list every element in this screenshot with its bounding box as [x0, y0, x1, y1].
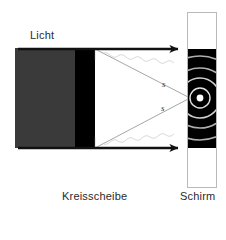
ray-upper: [95, 49, 190, 98]
ray-label-upper: s: [162, 79, 166, 89]
label-licht: Licht: [30, 29, 54, 41]
label-kreisscheibe: Kreisscheibe: [62, 190, 127, 202]
ray-label-lower: s: [161, 103, 165, 113]
wave-squiggles: [102, 53, 174, 145]
ray-group: [95, 49, 190, 148]
light-block: [15, 48, 75, 148]
diffraction-pattern: [158, 49, 226, 148]
disc-bar: [75, 48, 95, 148]
ray-lower: [95, 98, 190, 148]
poisson-center-spot: [197, 95, 204, 102]
label-schirm: Schirm: [180, 190, 215, 202]
